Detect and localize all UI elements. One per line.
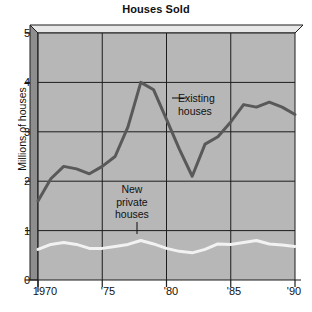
chart-container: Houses Sold Millions of houses 5 4 3 2 1…	[0, 0, 312, 312]
plot-box-side-wall	[30, 25, 38, 280]
annotation-line: New	[115, 183, 149, 196]
annotation-line: houses	[178, 105, 215, 118]
annotation-line: houses	[115, 208, 149, 221]
annotation-new-private-houses: New private houses	[115, 183, 149, 221]
annotation-line: Existing	[178, 92, 215, 105]
plot-box-top-bevel	[30, 25, 303, 33]
plot-area	[0, 0, 312, 312]
annotation-existing-houses: Existing houses	[178, 92, 215, 117]
annotation-line: private	[115, 196, 149, 209]
